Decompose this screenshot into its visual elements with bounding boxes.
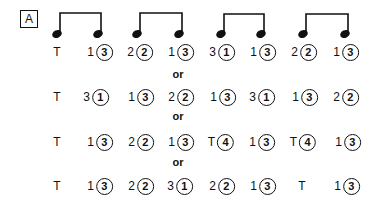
circled-string-number: 3 bbox=[258, 134, 275, 151]
note-pair-1 bbox=[52, 13, 103, 38]
circled-string-number: 1 bbox=[176, 178, 193, 195]
circled-string-number: 3 bbox=[259, 178, 276, 195]
fingering-cell: 22 bbox=[127, 43, 153, 61]
circled-string-number: 2 bbox=[218, 178, 235, 195]
circled-string-number: 2 bbox=[136, 44, 153, 61]
circled-string-number: 3 bbox=[342, 44, 359, 61]
fingering-cell: 22 bbox=[128, 177, 154, 195]
circled-string-number: 3 bbox=[96, 134, 113, 151]
fingering-cell: 13 bbox=[210, 88, 236, 106]
beamed-eighth-notes bbox=[0, 0, 378, 45]
fingering-cell: 13 bbox=[249, 133, 275, 151]
circled-string-number: 2 bbox=[137, 134, 154, 151]
circled-string-number: 3 bbox=[137, 89, 154, 106]
circled-string-number: 2 bbox=[137, 178, 154, 195]
fingering-cell: 13 bbox=[335, 133, 361, 151]
circled-string-number: 3 bbox=[344, 134, 361, 151]
fingering-cell: T4 bbox=[290, 133, 316, 151]
fingering-cell: 13 bbox=[334, 177, 360, 195]
circled-string-number: 1 bbox=[92, 89, 109, 106]
fingering-cell: 22 bbox=[168, 88, 194, 106]
or-separator: or bbox=[173, 110, 184, 122]
fingering-cell: 13 bbox=[168, 133, 194, 151]
fingering-cell: 31 bbox=[209, 43, 235, 61]
circled-string-number: 3 bbox=[259, 44, 276, 61]
fingering-row-1: T 13 22 13 31 13 22 13 bbox=[0, 43, 378, 63]
fingering-row-3: T 13 22 13 T4 13 T4 13 bbox=[0, 133, 378, 153]
fingering-cell: T bbox=[53, 133, 60, 151]
circled-string-number: 3 bbox=[177, 44, 194, 61]
fingering-cell: 13 bbox=[168, 43, 194, 61]
fingering-cell: 13 bbox=[333, 43, 359, 61]
fingering-cell: 22 bbox=[291, 43, 317, 61]
fingering-cell: 13 bbox=[250, 43, 276, 61]
fingering-cell: 13 bbox=[128, 88, 154, 106]
or-separator: or bbox=[173, 68, 184, 80]
fingering-cell: 22 bbox=[209, 177, 235, 195]
fingering-row-4: T 13 22 31 22 13 T 13 bbox=[0, 177, 378, 197]
fingering-cell: T bbox=[298, 177, 305, 195]
fingering-cell: 13 bbox=[292, 88, 318, 106]
circled-string-number: 4 bbox=[217, 134, 234, 151]
note-pair-3 bbox=[216, 14, 266, 38]
circled-string-number: 3 bbox=[96, 178, 113, 195]
circled-string-number: 3 bbox=[177, 134, 194, 151]
fingering-cell: 31 bbox=[249, 88, 275, 106]
fingering-cell: T bbox=[53, 43, 60, 61]
fingering-cell: 22 bbox=[128, 133, 154, 151]
circled-string-number: 2 bbox=[177, 89, 194, 106]
circled-string-number: 3 bbox=[96, 44, 113, 61]
fingering-cell: T4 bbox=[208, 133, 234, 151]
circled-string-number: 3 bbox=[343, 178, 360, 195]
note-pair-2 bbox=[132, 13, 184, 38]
fingering-cell: 22 bbox=[333, 88, 359, 106]
circled-string-number: 2 bbox=[300, 44, 317, 61]
fingering-cell: 31 bbox=[83, 88, 109, 106]
note-pair-4 bbox=[298, 14, 350, 38]
fingering-cell: 13 bbox=[87, 133, 113, 151]
fingering-row-2: T 31 13 22 13 31 13 22 bbox=[0, 88, 378, 108]
circled-string-number: 2 bbox=[342, 89, 359, 106]
fingering-cell: 13 bbox=[250, 177, 276, 195]
fingering-cell: T bbox=[53, 177, 60, 195]
circled-string-number: 1 bbox=[218, 44, 235, 61]
circled-string-number: 4 bbox=[299, 134, 316, 151]
or-separator: or bbox=[173, 156, 184, 168]
fingering-cell: 13 bbox=[87, 177, 113, 195]
fingering-cell: 13 bbox=[87, 43, 113, 61]
fingering-cell: 31 bbox=[167, 177, 193, 195]
circled-string-number: 3 bbox=[219, 89, 236, 106]
fingering-cell: T bbox=[53, 88, 60, 106]
circled-string-number: 3 bbox=[301, 89, 318, 106]
circled-string-number: 1 bbox=[258, 89, 275, 106]
